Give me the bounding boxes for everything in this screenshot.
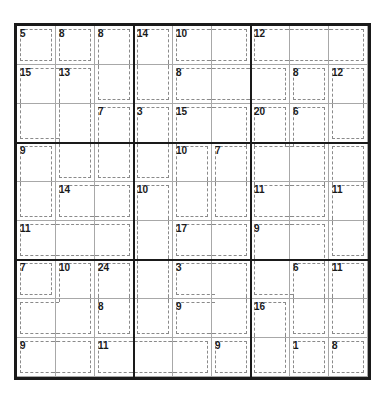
cell-r7c6[interactable]: [212, 260, 251, 299]
cell-r8c2[interactable]: [56, 299, 95, 338]
cage-sum: 15: [176, 106, 187, 117]
cell-r5c8[interactable]: [290, 182, 329, 221]
cell-r6c7[interactable]: 9: [251, 221, 290, 260]
cell-r6c8[interactable]: [290, 221, 329, 260]
cell-r3c3[interactable]: 7: [95, 104, 134, 143]
cage-outline: [52, 295, 91, 334]
cell-r8c6[interactable]: [212, 299, 251, 338]
cage-outline: [254, 334, 286, 373]
cell-r5c1[interactable]: [17, 182, 56, 221]
cell-r9c9[interactable]: 8: [329, 338, 368, 377]
cell-r3c4[interactable]: 3: [134, 104, 173, 143]
cell-r9c4[interactable]: [134, 338, 173, 377]
cell-r9c2[interactable]: [56, 338, 95, 377]
cell-r6c9[interactable]: [329, 221, 368, 260]
cell-r9c1[interactable]: 9: [17, 338, 56, 377]
cell-r1c3[interactable]: 8: [95, 26, 134, 65]
cell-r7c4[interactable]: [134, 260, 173, 299]
cell-r4c9[interactable]: [329, 143, 368, 182]
cell-r8c9[interactable]: [329, 299, 368, 338]
cell-r8c1[interactable]: [17, 299, 56, 338]
cell-r2c7[interactable]: [251, 65, 290, 104]
cell-r1c6[interactable]: [212, 26, 251, 65]
cell-r3c5[interactable]: 15: [173, 104, 212, 143]
cell-r4c4[interactable]: [134, 143, 173, 182]
killer-sudoku-grid: 5881410121513881273152069107141011111117…: [14, 23, 371, 380]
cell-r5c5[interactable]: [173, 182, 212, 221]
cell-r5c6[interactable]: [212, 182, 251, 221]
cell-r5c7[interactable]: 11: [251, 182, 290, 221]
cell-r2c2[interactable]: 13: [56, 65, 95, 104]
cell-r4c3[interactable]: [95, 143, 134, 182]
cell-r6c2[interactable]: [56, 221, 95, 260]
cell-r6c4[interactable]: [134, 221, 173, 260]
cell-r9c3[interactable]: 11: [95, 338, 134, 377]
cell-r1c9[interactable]: [329, 26, 368, 65]
cell-r3c7[interactable]: 20: [251, 104, 290, 143]
cage-outline: [215, 178, 247, 217]
cage-sum: 6: [293, 262, 299, 273]
cell-r7c7[interactable]: [251, 260, 290, 299]
cell-r3c9[interactable]: [329, 104, 368, 143]
cell-r4c6[interactable]: 7: [212, 143, 251, 182]
cell-r2c3[interactable]: [95, 65, 134, 104]
cell-r1c8[interactable]: [290, 26, 329, 65]
cell-r7c9[interactable]: 11: [329, 260, 368, 299]
cage-outline: [91, 224, 130, 256]
cell-r1c5[interactable]: 10: [173, 26, 212, 65]
cell-r6c6[interactable]: [212, 221, 251, 260]
cell-r7c5[interactable]: 3: [173, 260, 212, 299]
cage-outline: [208, 295, 247, 334]
cell-r1c7[interactable]: 12: [251, 26, 290, 65]
cell-r7c1[interactable]: 7: [17, 260, 56, 299]
cell-r1c1[interactable]: 5: [17, 26, 56, 65]
cell-r4c1[interactable]: 9: [17, 143, 56, 182]
cell-r3c1[interactable]: [17, 104, 56, 143]
cage-sum: 1: [293, 340, 299, 351]
cell-r2c8[interactable]: 8: [290, 65, 329, 104]
cell-r4c5[interactable]: 10: [173, 143, 212, 182]
cell-r2c6[interactable]: [212, 65, 251, 104]
cell-r2c5[interactable]: 8: [173, 65, 212, 104]
cell-r3c2[interactable]: [56, 104, 95, 143]
cell-r8c3[interactable]: 8: [95, 299, 134, 338]
cage-outline: [247, 68, 286, 100]
cell-r8c4[interactable]: [134, 299, 173, 338]
cell-r3c6[interactable]: [212, 104, 251, 143]
cage-sum: 8: [59, 28, 65, 39]
cell-r9c5[interactable]: [173, 338, 212, 377]
cell-r7c2[interactable]: 10: [56, 260, 95, 299]
cell-r6c1[interactable]: 11: [17, 221, 56, 260]
cell-r8c8[interactable]: [290, 299, 329, 338]
cell-r6c5[interactable]: 17: [173, 221, 212, 260]
cell-r7c3[interactable]: 24: [95, 260, 134, 299]
cell-r9c6[interactable]: 9: [212, 338, 251, 377]
cell-r2c9[interactable]: 12: [329, 65, 368, 104]
cell-r6c3[interactable]: [95, 221, 134, 260]
cell-r4c2[interactable]: [56, 143, 95, 182]
cell-r9c7[interactable]: [251, 338, 290, 377]
cell-r9c8[interactable]: 1: [290, 338, 329, 377]
box-divider-vertical: [133, 26, 135, 377]
cell-r8c5[interactable]: 9: [173, 299, 212, 338]
cell-r2c1[interactable]: 15: [17, 65, 56, 104]
cage-outline: [137, 61, 169, 100]
cage-outline: [293, 295, 325, 334]
cage-outline: [98, 61, 130, 100]
cage-outline: [91, 185, 130, 217]
cell-r5c9[interactable]: 11: [329, 182, 368, 221]
cell-r3c8[interactable]: 6: [290, 104, 329, 143]
cell-r2c4[interactable]: [134, 65, 173, 104]
cell-r1c2[interactable]: 8: [56, 26, 95, 65]
cage-sum: 7: [20, 262, 26, 273]
cage-outline: [286, 146, 325, 185]
cell-r8c7[interactable]: 16: [251, 299, 290, 338]
cell-r1c4[interactable]: 14: [134, 26, 173, 65]
cell-r5c3[interactable]: [95, 182, 134, 221]
cell-r5c4[interactable]: 10: [134, 182, 173, 221]
cell-r4c7[interactable]: [251, 143, 290, 182]
cell-r5c2[interactable]: 14: [56, 182, 95, 221]
cage-outline: [176, 178, 208, 217]
cell-r7c8[interactable]: 6: [290, 260, 329, 299]
cell-r4c8[interactable]: [290, 143, 329, 182]
